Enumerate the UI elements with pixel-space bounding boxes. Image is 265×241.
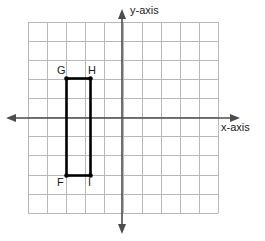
- vertex-label-f: F: [57, 176, 64, 188]
- y-axis-label: y-axis: [130, 4, 159, 16]
- vertex-label-h: H: [88, 64, 96, 76]
- y-axis-line: [118, 9, 126, 234]
- y-axis-arrow-down: [118, 224, 126, 234]
- vertex-label-i: I: [88, 176, 91, 188]
- rectangle-outline: [67, 79, 91, 176]
- vertex-point-g: [64, 76, 69, 81]
- vertex-point-h: [88, 76, 93, 81]
- vertex-point-f: [64, 173, 69, 178]
- y-axis-arrow-up: [118, 9, 126, 19]
- x-axis-arrow-left: [6, 114, 16, 122]
- shape-fghi: [64, 76, 93, 178]
- x-axis-label: x-axis: [221, 121, 250, 133]
- vertex-label-g: G: [57, 64, 66, 76]
- coordinate-plane-figure: y-axis x-axis G H F I: [0, 0, 265, 241]
